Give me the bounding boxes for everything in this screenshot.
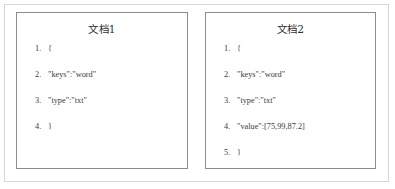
list-item-text: "keys":"word" [237, 70, 285, 80]
list-item-marker: 5. [224, 148, 237, 158]
list-item-marker: 1. [35, 44, 48, 54]
document-cards-row: 文档1 1. { 2. "keys":"word" 3. "type":"txt… [0, 0, 395, 189]
list-item: 1. { [17, 44, 187, 54]
list-item-marker: 2. [224, 70, 237, 80]
list-item-marker: 2. [35, 70, 48, 80]
list-item-text: } [237, 148, 241, 158]
document-2-line-list: 1. { 2. "keys":"word" 3. "type":"txt" 4.… [206, 44, 375, 158]
list-item: 2. "keys":"word" [206, 70, 375, 80]
document-2-title: 文档2 [206, 23, 375, 35]
list-item-marker: 1. [224, 44, 237, 54]
list-item: 4. } [17, 122, 187, 132]
list-item-text: } [48, 122, 52, 132]
list-item-text: { [237, 44, 241, 54]
list-item: 2. "keys":"word" [17, 70, 187, 80]
list-item-text: { [48, 44, 52, 54]
list-item: 4. "value":[75,99,87.2] [206, 122, 375, 132]
list-item-text: "keys":"word" [48, 70, 96, 80]
list-item: 5. } [206, 148, 375, 158]
list-item-marker: 4. [224, 122, 237, 132]
list-item-marker: 3. [35, 96, 48, 106]
document-1-line-list: 1. { 2. "keys":"word" 3. "type":"txt" 4.… [17, 44, 187, 132]
list-item: 1. { [206, 44, 375, 54]
list-item: 3. "type":"txt" [206, 96, 375, 106]
document-card-2: 文档2 1. { 2. "keys":"word" 3. "type":"txt… [205, 12, 376, 169]
list-item-marker: 3. [224, 96, 237, 106]
list-item-text: "value":[75,99,87.2] [237, 122, 305, 132]
document-card-1: 文档1 1. { 2. "keys":"word" 3. "type":"txt… [16, 12, 188, 169]
list-item: 3. "type":"txt" [17, 96, 187, 106]
list-item-text: "type":"txt" [237, 96, 276, 106]
list-item-marker: 4. [35, 122, 48, 132]
document-1-title: 文档1 [17, 23, 187, 35]
list-item-text: "type":"txt" [48, 96, 87, 106]
